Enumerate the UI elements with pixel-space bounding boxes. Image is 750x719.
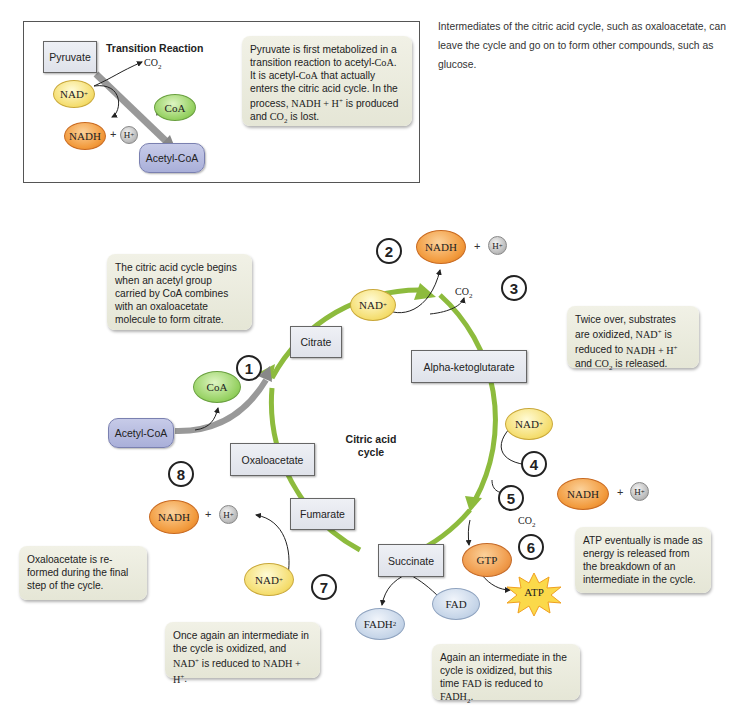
nadh-step8: NADH — [149, 500, 199, 534]
step-1: 1 — [236, 355, 262, 381]
note-reformed: Oxaloacetate is re-formed during the fin… — [19, 546, 147, 600]
h-step2: H+ — [488, 236, 507, 255]
nadh-step2: NADH — [416, 230, 466, 264]
cycle-center-label: Citric acid cycle — [341, 433, 401, 459]
step-6: 6 — [518, 534, 544, 560]
step-2: 2 — [376, 238, 402, 264]
nad-step4: NAD+ — [505, 408, 553, 440]
step-3: 3 — [501, 275, 527, 301]
acetyl-coa-input: Acetyl-CoA — [108, 418, 174, 448]
alpha-ketoglutarate-box: Alpha-ketoglutarate — [411, 350, 527, 383]
co2-step5: CO2 — [518, 515, 535, 529]
note-twice-oxidized: Twice over, substrates are oxidized, NAD… — [567, 306, 699, 368]
plus-step4: + — [617, 486, 623, 498]
step-8: 8 — [168, 461, 194, 487]
step-4: 4 — [521, 451, 547, 477]
step-7: 7 — [311, 574, 337, 600]
succinate-box: Succinate — [378, 544, 444, 577]
fumarate-box: Fumarate — [290, 498, 355, 530]
plus-step2: + — [474, 240, 480, 252]
citrate-box: Citrate — [290, 326, 342, 358]
note-nad-again: Once again an intermediate in the cycle … — [165, 622, 320, 678]
h-step4: H+ — [630, 482, 649, 501]
note-atp: ATP eventually is made as energy is rele… — [575, 527, 711, 593]
note-fad: Again an intermediate in the cycle is ox… — [432, 644, 580, 700]
co2-step3: CO2 — [455, 286, 472, 300]
fadh2-ellipse: FADH2 — [355, 608, 405, 640]
nad-step7: NAD+ — [244, 563, 294, 596]
oxaloacetate-box: Oxaloacetate — [230, 443, 315, 476]
step-5: 5 — [498, 485, 524, 511]
atp-label: ATP — [520, 586, 548, 598]
nad-step2: NAD+ — [350, 289, 396, 321]
fad-ellipse: FAD — [432, 588, 480, 620]
note-cycle-begins: The citric acid cycle begins when an ace… — [107, 254, 252, 330]
h-step8: H+ — [219, 505, 238, 524]
coa-release: CoA — [193, 371, 241, 403]
nadh-step4: NADH — [557, 478, 609, 510]
plus-step8: + — [205, 508, 211, 520]
